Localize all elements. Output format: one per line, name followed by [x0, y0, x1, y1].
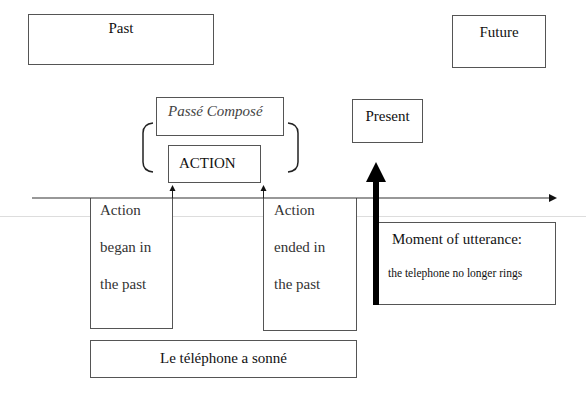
diagram-lines	[0, 0, 586, 396]
began-arrow	[170, 185, 176, 198]
right-bracket	[288, 123, 298, 172]
timeline-arrow	[32, 194, 557, 202]
left-bracket	[143, 123, 153, 172]
ended-arrow	[261, 185, 267, 198]
present-arrow	[366, 162, 386, 305]
